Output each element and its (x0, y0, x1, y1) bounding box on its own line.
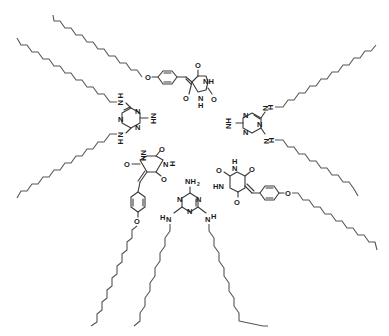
barbiturate-lower-left: NH O O N H O O (91, 145, 177, 326)
svg-text:H: H (266, 105, 275, 110)
alkyl-chain (275, 140, 358, 196)
svg-text:NH: NH (149, 113, 158, 124)
svg-text:N: N (205, 215, 210, 224)
svg-text:NH: NH (203, 77, 214, 86)
svg-text:NH: NH (224, 118, 233, 129)
svg-text:N: N (135, 123, 140, 132)
svg-text:O: O (161, 175, 167, 184)
svg-text:O: O (234, 198, 240, 207)
svg-text:O: O (159, 145, 165, 154)
alkyl-chain (53, 15, 142, 77)
svg-text:N: N (243, 111, 248, 120)
pyrimidine-ring (230, 172, 245, 192)
svg-text:HN: HN (213, 182, 224, 191)
svg-text:O: O (124, 160, 130, 169)
svg-text:N: N (232, 164, 237, 173)
svg-text:N: N (135, 107, 140, 116)
svg-text:N: N (257, 120, 262, 129)
svg-text:2: 2 (197, 181, 200, 187)
svg-text:NH: NH (185, 177, 196, 186)
alkyl-chain (91, 226, 137, 326)
svg-text:N: N (177, 195, 182, 204)
alkyl-chain (134, 224, 170, 326)
svg-text:O: O (211, 95, 217, 104)
svg-text:O: O (216, 166, 222, 175)
alkyl-chain (209, 224, 268, 326)
alkyl-chain (275, 45, 376, 107)
svg-text:NH: NH (139, 150, 148, 161)
svg-text:N: N (187, 207, 192, 216)
melamine-right: N H N N N NH N H (224, 45, 376, 196)
alkyl-chain (17, 38, 117, 102)
svg-text:O: O (249, 165, 255, 174)
svg-text:H: H (116, 93, 125, 98)
svg-text:N: N (163, 160, 168, 169)
svg-text:O: O (285, 189, 291, 198)
svg-text:N: N (116, 100, 125, 105)
svg-text:N: N (116, 132, 125, 137)
svg-text:O: O (183, 94, 189, 103)
svg-text:H: H (160, 213, 165, 222)
alkyl-chain (292, 193, 377, 250)
svg-text:O: O (195, 61, 201, 70)
svg-text:N: N (243, 128, 248, 137)
svg-text:O: O (134, 217, 140, 226)
svg-text:N: N (196, 195, 201, 204)
svg-text:H: H (168, 161, 177, 166)
svg-text:H: H (267, 138, 276, 143)
svg-text:H: H (116, 139, 125, 144)
svg-text:H: H (211, 212, 216, 221)
melamine-left: N H N N N NH N H (17, 38, 158, 198)
svg-text:N: N (166, 215, 171, 224)
alkyl-chain (17, 134, 117, 198)
barbiturate-lower-right: H N O O HN O O (213, 157, 377, 250)
atom-oxygen: O (145, 73, 151, 82)
barbiturate-top: O O NH O N H O (53, 15, 217, 110)
svg-text:H: H (198, 101, 203, 110)
rosette-diagram: O O NH O N H O N H N N N NH (0, 0, 389, 336)
svg-text:N: N (118, 115, 123, 124)
melamine-bottom: NH 2 N N N H N N H (134, 177, 268, 326)
